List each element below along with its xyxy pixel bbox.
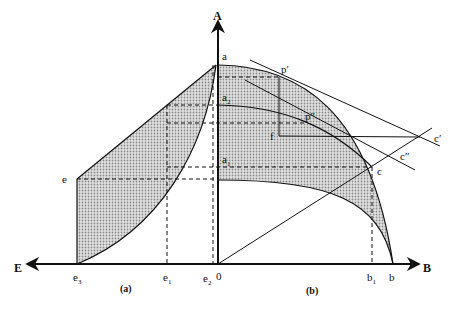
label-b: b <box>389 271 395 283</box>
production-possibility-diagram: A B E 0 a a2 a1 p′ p″ f c c′ c″ e e3 e1 … <box>0 0 460 310</box>
label-p-prime: p′ <box>281 63 289 75</box>
label-c: c <box>377 165 382 177</box>
shaded-region-a <box>77 65 216 264</box>
label-e1: e1 <box>163 271 172 286</box>
origin-label: 0 <box>216 270 222 282</box>
axis-label-a: A <box>213 9 222 23</box>
label-p-double-prime: p″ <box>305 110 315 122</box>
axis-label-b: B <box>423 261 431 275</box>
label-a: a <box>222 50 227 62</box>
shaded-region-b <box>218 65 393 264</box>
label-c-prime: c′ <box>434 132 441 144</box>
label-e3: e3 <box>73 271 82 286</box>
axis-label-e: E <box>14 261 22 275</box>
label-e2: e2 <box>203 272 212 287</box>
caption-b: (b) <box>306 285 318 297</box>
label-f: f <box>270 130 274 142</box>
label-b1: b1 <box>367 271 377 286</box>
label-e: e <box>62 173 67 185</box>
caption-a: (a) <box>120 283 132 295</box>
label-c-double-prime: c″ <box>400 150 409 162</box>
